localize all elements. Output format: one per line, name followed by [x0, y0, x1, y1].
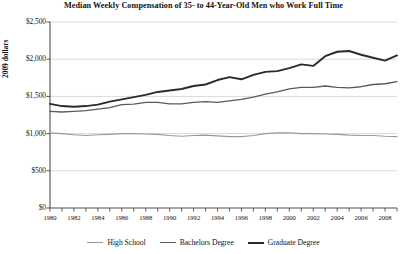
- legend-label: High School: [107, 238, 145, 247]
- plot-area: [0, 0, 407, 254]
- chart-legend: High SchoolBachelors DegreeGraduate Degr…: [0, 238, 407, 247]
- chart-container: Median Weekly Compensation of 35- to 44-…: [0, 0, 407, 254]
- legend-label: Graduate Degree: [268, 238, 320, 247]
- legend-item[interactable]: High School: [87, 238, 145, 247]
- legend-item[interactable]: Bachelors Degree: [160, 238, 234, 247]
- legend-line-swatch: [160, 242, 176, 243]
- legend-label: Bachelors Degree: [180, 238, 234, 247]
- legend-line-swatch: [87, 242, 103, 243]
- legend-item[interactable]: Graduate Degree: [248, 238, 320, 247]
- series-line: [50, 82, 397, 113]
- legend-line-swatch: [248, 242, 264, 244]
